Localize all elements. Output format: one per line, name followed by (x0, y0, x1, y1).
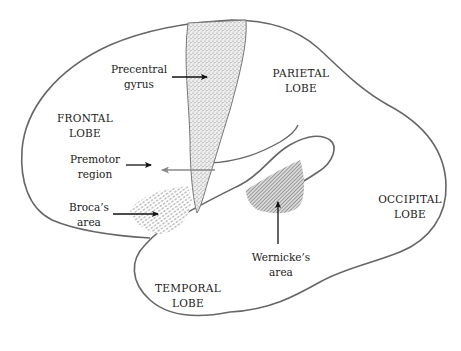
precentral-line2: gyrus (108, 77, 170, 92)
wernicke-line1: Wernicke’s (248, 250, 314, 265)
wernicke-line2: area (248, 265, 314, 280)
temporal-lobe-line1: TEMPORAL (148, 281, 228, 296)
frontal-lobe-line1: FRONTAL (50, 111, 120, 126)
frontal-lobe-label: FRONTAL LOBE (50, 111, 120, 141)
broca-line2: area (66, 215, 112, 230)
broca-line1: Broca’s (66, 200, 112, 215)
temporal-lobe-label: TEMPORAL LOBE (148, 281, 228, 311)
occipital-lobe-line1: OCCIPITAL (370, 192, 450, 207)
premotor-line1: Premotor (66, 152, 124, 167)
occipital-lobe-label: OCCIPITAL LOBE (370, 192, 450, 222)
premotor-line2: region (66, 167, 124, 182)
parietal-lobe-line1: PARIETAL (261, 66, 341, 81)
broca-area-region (130, 186, 192, 234)
frontal-lobe-line2: LOBE (50, 126, 120, 141)
premotor-region-label: Premotor region (66, 152, 124, 182)
parietal-lobe-label: PARIETAL LOBE (261, 66, 341, 96)
precentral-gyrus-label: Precentral gyrus (108, 62, 170, 92)
broca-area-label: Broca’s area (66, 200, 112, 230)
wernicke-area-label: Wernicke’s area (248, 250, 314, 280)
precentral-line1: Precentral (108, 62, 170, 77)
wernicke-area-region (246, 160, 304, 213)
precentral-gyrus-region (186, 20, 246, 213)
occipital-lobe-line2: LOBE (370, 207, 450, 222)
temporal-lobe-line2: LOBE (148, 296, 228, 311)
parietal-lobe-line2: LOBE (261, 81, 341, 96)
